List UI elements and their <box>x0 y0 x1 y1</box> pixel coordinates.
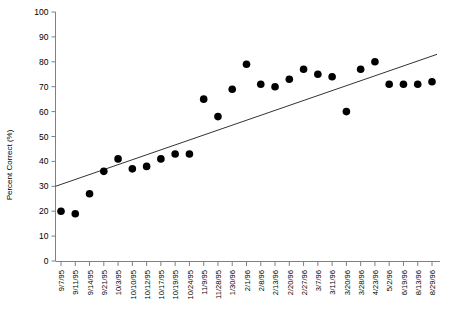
x-tick-label: 10/19/95 <box>171 270 180 300</box>
y-tick-label: 80 <box>39 57 49 67</box>
data-point <box>143 163 151 171</box>
x-tick-group: 9/7/959/11/959/14/959/21/9510/3/9510/10/… <box>57 261 437 300</box>
x-tick-label: 10/17/95 <box>157 270 166 300</box>
x-tick-label: 2/13/96 <box>271 270 280 295</box>
data-point <box>257 80 265 88</box>
scatter-chart: Percent Correct (%) 01020304050607080901… <box>0 0 457 321</box>
x-tick-label: 9/21/95 <box>100 270 109 295</box>
data-point <box>428 78 436 86</box>
x-tick-label: 2/8/96 <box>257 270 266 291</box>
data-point <box>86 190 94 198</box>
x-tick-label: 10/3/95 <box>114 270 123 295</box>
data-point <box>186 150 194 158</box>
y-tick-label: 90 <box>39 32 49 42</box>
trend-line-group <box>56 54 438 186</box>
x-tick-label: 9/14/95 <box>86 270 95 295</box>
data-point <box>228 85 236 93</box>
y-tick-group: 0102030405060708090100 <box>34 7 55 266</box>
x-tick-label: 11/9/95 <box>200 270 209 295</box>
data-point <box>271 83 279 91</box>
data-point <box>157 155 165 163</box>
data-point <box>400 80 408 88</box>
data-point <box>314 70 322 78</box>
data-point <box>328 73 336 81</box>
y-tick-label: 30 <box>39 181 49 191</box>
data-point <box>114 155 122 163</box>
trend-line <box>56 54 438 186</box>
x-tick-label: 10/24/95 <box>186 270 195 300</box>
data-point <box>357 65 365 73</box>
x-tick-label: 4/23/96 <box>371 270 380 295</box>
chart-svg: Percent Correct (%) 01020304050607080901… <box>0 0 457 321</box>
data-point <box>371 58 379 66</box>
x-tick-label: 10/12/95 <box>143 270 152 300</box>
y-tick-label: 70 <box>39 82 49 92</box>
data-point <box>171 150 179 158</box>
data-point <box>300 65 308 73</box>
x-tick-label: 2/27/96 <box>300 270 309 295</box>
data-point <box>200 95 208 103</box>
x-tick-label: 9/11/95 <box>71 270 80 295</box>
y-tick-label: 60 <box>39 107 49 117</box>
x-tick-label: 3/28/96 <box>357 270 366 295</box>
data-point <box>385 80 393 88</box>
data-point <box>129 165 137 173</box>
x-tick-label: 10/10/95 <box>129 270 138 300</box>
y-tick-label: 0 <box>44 256 49 266</box>
data-point <box>214 113 222 121</box>
y-tick-label: 100 <box>34 7 48 17</box>
y-tick-label: 10 <box>39 231 49 241</box>
x-tick-label: 2/1/96 <box>243 270 252 291</box>
data-point <box>100 168 108 176</box>
x-tick-label: 9/7/95 <box>57 270 66 291</box>
x-tick-label: 2/20/96 <box>286 270 295 295</box>
x-tick-label: 1/30/96 <box>228 270 237 295</box>
data-point <box>243 60 251 68</box>
x-tick-label: 3/20/96 <box>343 270 352 295</box>
x-tick-label: 6/19/96 <box>400 270 409 295</box>
data-point <box>286 75 294 83</box>
y-tick-label: 40 <box>39 156 49 166</box>
y-tick-label: 50 <box>39 132 49 142</box>
y-tick-label: 20 <box>39 206 49 216</box>
x-tick-label: 5/2/96 <box>385 270 394 291</box>
x-tick-label: 3/7/96 <box>314 270 323 291</box>
x-tick-label: 3/11/96 <box>328 270 337 295</box>
y-axis-label: Percent Correct (%) <box>5 129 14 200</box>
data-point <box>57 207 65 215</box>
data-point <box>71 210 79 218</box>
data-point <box>414 80 422 88</box>
x-tick-label: 11/28/95 <box>214 270 223 299</box>
data-point <box>343 108 351 116</box>
x-tick-label: 8/29/96 <box>428 270 437 295</box>
data-point-group <box>57 58 436 217</box>
x-tick-label: 8/13/96 <box>414 270 423 295</box>
